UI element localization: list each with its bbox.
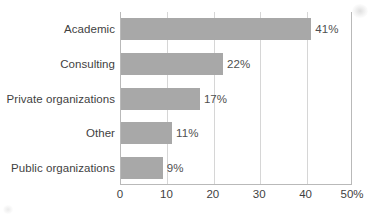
- scan-artifact-top-right: [352, 4, 368, 18]
- bar-row: 41%: [121, 18, 353, 40]
- bar-value-label: 11%: [176, 127, 198, 139]
- bar-value-label: 41%: [315, 23, 338, 35]
- bar-chart: 41%22%17%11%9% AcademicConsultingPrivate…: [0, 0, 372, 217]
- scan-artifact-bottom-left: [3, 205, 13, 214]
- bar: [121, 18, 311, 40]
- category-label: Private organizations: [7, 88, 115, 110]
- bar-row: 9%: [121, 157, 353, 179]
- category-label: Consulting: [60, 53, 115, 75]
- x-tick-label: 10: [160, 188, 173, 200]
- x-tick-label: 50%: [340, 188, 363, 200]
- bar-value-label: 22%: [227, 58, 250, 70]
- bar: [121, 157, 163, 179]
- bar-series: 41%22%17%11%9%: [121, 12, 351, 184]
- category-label: Academic: [64, 18, 115, 40]
- category-label: Public organizations: [11, 157, 115, 179]
- x-tick-label: 0: [117, 188, 123, 200]
- bar-row: 11%: [121, 122, 353, 144]
- bar: [121, 88, 200, 110]
- category-label: Other: [86, 122, 115, 144]
- x-tick-label: 20: [206, 188, 219, 200]
- bar: [121, 122, 172, 144]
- bar-value-label: 17%: [204, 93, 227, 105]
- x-tick-label: 40: [299, 188, 312, 200]
- bar-value-label: 9%: [167, 162, 184, 174]
- category-axis-labels: AcademicConsultingPrivate organizationsO…: [0, 12, 115, 185]
- x-tick-label: 30: [253, 188, 266, 200]
- x-axis-tick-labels: 01020304050%: [120, 186, 352, 208]
- bar: [121, 53, 223, 75]
- plot-area: 41%22%17%11%9%: [120, 12, 352, 185]
- bar-row: 22%: [121, 53, 353, 75]
- bar-row: 17%: [121, 88, 353, 110]
